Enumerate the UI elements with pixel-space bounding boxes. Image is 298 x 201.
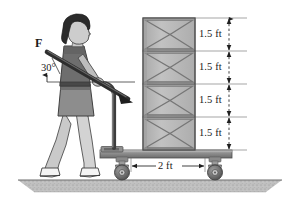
ground-surface: [18, 180, 282, 192]
crate-3: [143, 84, 195, 117]
dimension-label-h2: 1.5 ft: [199, 61, 222, 72]
caster-wheel-right: [208, 157, 223, 180]
woman-figure: [40, 14, 104, 177]
physics-diagram: F 30° 1.5 ft 1.5 ft 1.5 ft 1.5 ft 2 ft: [0, 0, 298, 201]
angle-label: 30°: [41, 62, 56, 73]
dimension-label-width: 2 ft: [158, 160, 173, 171]
dimension-label-h3: 1.5 ft: [199, 94, 222, 105]
caster-wheel-left: [115, 157, 130, 180]
crate-stack: [143, 18, 195, 150]
dimension-label-h4: 1.5 ft: [199, 127, 222, 138]
force-label: F: [35, 36, 42, 51]
crate-1: [143, 18, 195, 51]
crate-4: [143, 117, 195, 150]
crate-2: [143, 51, 195, 84]
diagram-canvas: [0, 0, 298, 201]
dimension-label-h1: 1.5 ft: [199, 28, 222, 39]
